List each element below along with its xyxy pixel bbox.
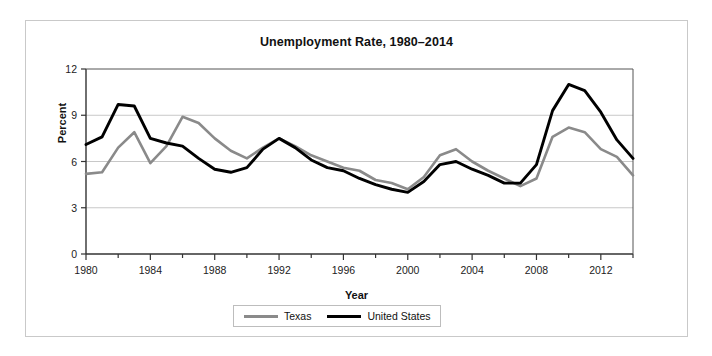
chart-figure: Unemployment Rate, 1980–2014 Percent Yea… <box>25 20 688 337</box>
x-tick-labels: 198019841988199219962000200420082012 <box>74 264 612 276</box>
legend: Texas United States <box>233 305 441 327</box>
legend-label-united-states: United States <box>367 310 430 322</box>
svg-text:1984: 1984 <box>139 264 163 276</box>
gridlines <box>81 69 633 254</box>
svg-text:6: 6 <box>71 156 77 168</box>
x-tick-marks <box>86 254 633 260</box>
svg-text:1996: 1996 <box>332 264 356 276</box>
svg-text:2012: 2012 <box>589 264 613 276</box>
svg-text:2000: 2000 <box>396 264 420 276</box>
svg-text:2008: 2008 <box>525 264 549 276</box>
svg-text:2004: 2004 <box>460 264 484 276</box>
svg-text:1988: 1988 <box>203 264 227 276</box>
plot-area: 036912 198019841988199219962000200420082… <box>26 21 689 338</box>
svg-text:1992: 1992 <box>267 264 291 276</box>
legend-item-texas: Texas <box>244 310 311 322</box>
svg-text:9: 9 <box>71 109 77 121</box>
legend-swatch-texas <box>244 315 278 318</box>
legend-item-united-states: United States <box>327 310 430 322</box>
legend-label-texas: Texas <box>284 310 311 322</box>
svg-text:12: 12 <box>65 63 77 75</box>
y-tick-labels: 036912 <box>65 63 77 260</box>
legend-swatch-united-states <box>327 315 361 318</box>
svg-text:3: 3 <box>71 202 77 214</box>
svg-text:1980: 1980 <box>74 264 98 276</box>
data-series <box>86 84 633 192</box>
svg-text:0: 0 <box>71 248 77 260</box>
